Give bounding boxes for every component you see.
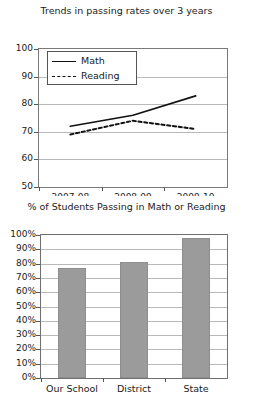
x-axis-tick-label: District	[117, 383, 151, 394]
line-chart-legend: Math Reading	[47, 51, 137, 85]
x-axis-tickmark	[103, 378, 104, 382]
bar	[58, 268, 87, 378]
bar	[182, 238, 211, 378]
y-axis-tick-label: 100%	[10, 230, 36, 239]
bar-chart-title: % of Students Passing in Math or Reading	[0, 196, 253, 213]
y-axis-tick-label: 10%	[16, 359, 36, 368]
x-axis-tick-label: State	[183, 383, 208, 394]
x-axis-tickmark	[164, 187, 165, 191]
y-axis-tick-label: 0%	[22, 373, 36, 382]
y-axis-tick-label: 90%	[16, 244, 36, 253]
legend-label-reading: Reading	[81, 71, 120, 81]
y-axis-tick-label: 60	[22, 154, 33, 163]
line-chart-title: Trends in passing rates over 3 years	[0, 0, 253, 17]
line-chart-figure: Trends in passing rates over 3 years 506…	[0, 0, 253, 196]
dashed-line-icon	[52, 72, 76, 81]
y-axis-tick-label: 80%	[16, 259, 36, 268]
x-axis-tickmark	[39, 187, 40, 191]
y-axis-tick-label: 70%	[16, 273, 36, 282]
legend-entry-reading: Reading	[52, 69, 120, 83]
y-axis-tick-label: 60%	[16, 287, 36, 296]
y-axis-tick-label: 20%	[16, 344, 36, 353]
x-axis-tickmark	[165, 378, 166, 382]
y-axis-tick-label: 100	[16, 44, 33, 53]
y-axis-tick-label: 90	[22, 72, 33, 81]
bar-chart-figure: % of Students Passing in Math or Reading…	[0, 196, 253, 401]
x-axis-tickmark	[41, 378, 42, 382]
legend-entry-math: Math	[52, 54, 105, 68]
x-axis-tickmark	[102, 187, 103, 191]
x-axis-tick-label: Our School	[46, 383, 98, 394]
y-axis-tick-label: 30%	[16, 330, 36, 339]
legend-label-math: Math	[81, 56, 105, 66]
y-axis-tick-label: 80	[22, 99, 33, 108]
y-axis-tick-label: 50	[22, 182, 33, 191]
bar-chart-plot-area	[40, 234, 228, 379]
bar	[120, 262, 149, 378]
y-axis-tick-label: 70	[22, 127, 33, 136]
y-axis-tick-label: 50%	[16, 302, 36, 311]
y-axis-tick-label: 40%	[16, 316, 36, 325]
solid-line-icon	[52, 57, 76, 66]
